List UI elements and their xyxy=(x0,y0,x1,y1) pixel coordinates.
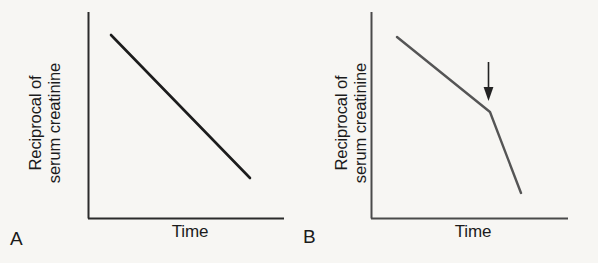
panel-a-data-line xyxy=(111,35,250,178)
panel-b-x-axis-label: Time xyxy=(423,222,523,242)
panel-b-letter: B xyxy=(303,226,316,248)
panel-b: Reciprocal of serum creatinine Time B xyxy=(299,0,598,263)
arrow-head xyxy=(484,87,494,101)
figure-two-panel-renal-decline: Reciprocal of serum creatinine Time A Re… xyxy=(0,0,598,263)
panel-a: Reciprocal of serum creatinine Time A xyxy=(0,0,299,263)
panel-a-letter: A xyxy=(10,228,23,250)
panel-b-arrow-annotation-icon xyxy=(484,62,494,101)
panel-a-x-axis-label: Time xyxy=(140,222,240,242)
panel-b-data-line xyxy=(397,37,521,193)
